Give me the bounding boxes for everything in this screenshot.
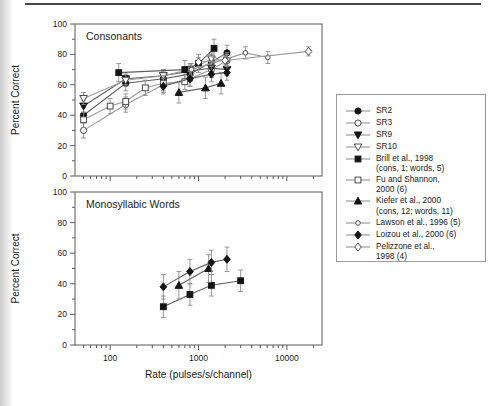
diamond-open-marker [305,47,312,55]
circle-open-marker [355,120,361,126]
square-open-marker [355,177,361,183]
series-kiefer-et-al-2000 [175,73,225,103]
diamond-filled-marker [160,283,167,291]
legend-item-sr9: SR9 [345,129,479,140]
legend: SR2SR3SR9SR10Brill et al., 1998 (cons, 1… [336,94,486,262]
square-filled-marker [209,282,215,288]
series-sr10 [80,53,231,105]
legend-item-kiefer: Kiefer et al., 2000 (cons, 12; words, 11… [345,195,479,215]
y-tick-label: 60 [58,80,68,90]
square-filled-marker [238,278,244,284]
y-tick-label: 60 [58,248,68,258]
square-filled-marker [182,67,188,73]
y-tick-label: 20 [58,141,68,151]
circle-small-icon [345,218,371,228]
y-tick-label: 100 [53,19,67,29]
legend-item-pelizzone: Pelizzone et al., 1998 (4) [345,241,479,261]
circle-small-open-marker [243,51,248,56]
legend-item-label: Lawson et al., 1996 (5) [376,217,460,227]
legend-item-label: SR3 [376,117,392,127]
x-tick-label: 1000 [189,353,208,363]
y-tick-label: 20 [58,309,68,319]
square-open-marker [81,117,87,123]
diamond-filled-marker [355,231,362,239]
square-filled-marker [116,70,122,76]
legend-item-label: Fu and Shannon, 2000 (6) [376,174,440,194]
y-axis-label: Percent Correct [10,233,21,303]
square-open-marker [107,103,113,109]
y-tick-label: 100 [53,187,67,197]
y-tick-label: 0 [62,171,67,181]
legend-item-sr3: SR3 [345,117,479,128]
triangle-up-icon [345,196,371,206]
y-tick-label: 40 [58,110,68,120]
y-tick-label: 80 [58,218,68,228]
legend-item-label: SR9 [376,129,392,139]
legend-item-label: SR10 [376,141,397,151]
circle-icon [345,106,371,116]
plot-frame [75,192,322,345]
circle-filled-marker [355,108,361,114]
chart-monosyllabic-words: 100100010000020406080100Monosyllabic Wor… [10,187,322,380]
triangle-up-filled-marker [175,282,183,289]
legend-item-lawson: Lawson et al., 1996 (5) [345,217,479,228]
y-tick-label: 80 [58,49,68,59]
triangle-down-open-marker [80,95,88,102]
triangle-up-filled-marker [217,79,225,86]
chart-title: Monosyllabic Words [86,198,180,210]
series-brill-et-al-1998 [160,270,243,317]
square-icon [345,175,371,185]
triangle-down-icon [345,142,371,152]
figure-page: 020406080100ConsonantsPercent Correct100… [0,0,493,406]
y-tick-label: 40 [58,279,68,289]
legend-item-label: Pelizzone et al., 1998 (4) [376,241,435,261]
legend-item-brill: Brill et al., 1998 (cons, 1; words, 5) [345,153,479,173]
square-filled-marker [211,45,217,51]
x-tick-label: 10000 [275,353,299,363]
circle-open-marker [80,127,86,133]
square-icon [345,154,371,164]
chart-title: Consonants [86,30,142,42]
legend-item-sr10: SR10 [345,141,479,152]
legend-item-label: Kiefer et al., 2000 (cons, 12; words, 11… [376,195,453,215]
legend-item-label: SR2 [376,105,392,115]
y-axis-label: Percent Correct [10,65,21,135]
plot-frame [75,24,322,176]
diamond-open-marker [355,243,362,251]
series-loizou-et-al-2000 [160,247,230,299]
legend-item-fu-shannon: Fu and Shannon, 2000 (6) [345,174,479,194]
square-open-marker [142,85,148,91]
diamond-icon [345,230,371,240]
x-axis-label: Rate (pulses/s/channel) [145,369,252,380]
square-filled-marker [187,292,193,298]
triangle-down-icon [345,130,371,140]
diamond-filled-marker [224,255,231,263]
legend-item-loizou: Loizou et al., 2000 (6) [345,229,479,240]
y-tick-label: 0 [62,340,67,350]
square-open-marker [123,99,129,105]
circle-icon [345,118,371,128]
legend-item-label: Loizou et al., 2000 (6) [376,229,456,239]
circle-small-open-marker [356,220,361,225]
chart-consonants: 020406080100ConsonantsPercent Correct [10,19,322,181]
square-filled-marker [160,304,166,310]
x-tick-label: 100 [103,353,117,363]
diamond-filled-marker [187,268,194,276]
legend-item-label: Brill et al., 1998 (cons, 1; words, 5) [376,153,444,173]
diamond-icon [345,242,371,252]
legend-item-sr2: SR2 [345,105,479,116]
square-filled-marker [355,156,361,162]
